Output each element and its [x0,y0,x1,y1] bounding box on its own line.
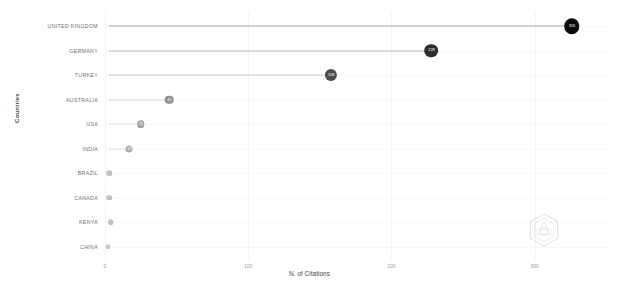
gridline-horizontal [105,198,607,199]
category-label: CHINA [18,244,98,250]
y-axis-title: Countries [14,78,20,138]
data-point-bubble [105,244,110,249]
category-label: CANADA [18,195,98,201]
gridline-horizontal [105,173,607,174]
lollipop-stem [109,75,329,76]
x-axis-title: N. of Citations [0,270,619,277]
data-point-bubble [107,195,113,201]
category-label: UNITED KINGDOM [18,23,98,29]
category-label: KENYA [18,219,98,225]
data-point-bubble: 228 [425,44,439,58]
x-tick-label: 300 [530,263,538,269]
y-axis-category-labels: UNITED KINGDOMGERMANYTURKEYAUSTRALIAUSAI… [0,0,98,296]
lollipop-stem [109,50,429,51]
category-label: INDIA [18,146,98,152]
x-tick-label: 0 [104,263,107,269]
data-point-bubble [108,219,114,225]
lollipop-stem [109,124,139,125]
data-point-bubble: 158 [325,69,337,81]
gridline-horizontal [105,124,607,125]
hexagon-logo-watermark [527,212,561,248]
category-label: TURKEY [18,72,98,78]
data-point-bubble: 17 [126,145,133,152]
category-label: AUSTRALIA [18,97,98,103]
gridline-horizontal [105,149,607,150]
x-tick-label: 100 [244,263,252,269]
data-point-bubble: 45 [165,95,174,104]
category-label: GERMANY [18,48,98,54]
lollipop-stem [109,99,167,100]
category-label: BRAZIL [18,170,98,176]
lollipop-stem [109,148,127,149]
x-tick-label: 200 [387,263,395,269]
data-point-bubble: 326 [564,18,580,34]
data-point-bubble: 25 [137,120,145,128]
lollipop-chart: 326228158452517 UNITED KINGDOMGERMANYTUR… [0,0,619,296]
gridline-horizontal [105,100,607,101]
category-label: USA [18,121,98,127]
data-point-bubble [107,170,113,176]
lollipop-stem [109,26,570,27]
